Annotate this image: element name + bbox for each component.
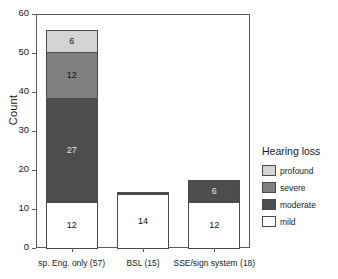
legend-swatch-moderate — [262, 199, 276, 210]
bar-segment-moderate[interactable]: 27 — [46, 98, 98, 203]
legend-item-severe[interactable]: severe — [262, 182, 338, 193]
y-tick-label: 10 — [18, 202, 29, 213]
bar-1[interactable]: 1227126 — [46, 30, 98, 248]
legend-title: Hearing loss — [262, 145, 338, 157]
bar-segment-profound[interactable]: 6 — [46, 30, 98, 53]
legend-label: severe — [280, 183, 306, 193]
segment-value-label: 6 — [212, 187, 217, 196]
segment-value-label: 14 — [138, 217, 148, 226]
bar-segment-mild[interactable]: 12 — [46, 202, 98, 249]
y-tick-label: 0 — [24, 241, 29, 252]
legend-label: mild — [280, 217, 296, 227]
stacked-bar-chart: Count 0102030405060 122712614126 sp. Eng… — [0, 0, 338, 279]
segment-value-label: 12 — [67, 71, 77, 80]
y-axis-title: Count — [7, 75, 19, 145]
bar-segment-moderate[interactable]: 6 — [188, 180, 240, 203]
segment-value-label: 12 — [209, 221, 219, 230]
bar-2[interactable]: 14 — [117, 192, 169, 248]
legend: Hearing loss profoundseveremoderatemild — [262, 145, 338, 233]
bar-segment-mild[interactable]: 12 — [188, 202, 240, 249]
legend-swatch-severe — [262, 182, 276, 193]
y-tick-label: 40 — [18, 85, 29, 96]
segment-value-label: 6 — [69, 37, 74, 46]
bars-group: 122712614126 — [36, 14, 250, 248]
segment-value-label: 12 — [67, 221, 77, 230]
x-tick-mark — [143, 248, 144, 252]
bar-3[interactable]: 126 — [188, 180, 240, 248]
y-tick-label: 30 — [18, 124, 29, 135]
y-tick-mark — [32, 248, 36, 249]
legend-swatch-mild — [262, 216, 276, 227]
legend-items: profoundseveremoderatemild — [262, 165, 338, 227]
legend-label: profound — [280, 166, 314, 176]
legend-swatch-profound — [262, 165, 276, 176]
x-axis-label: sp. Eng. only (57) — [38, 258, 105, 268]
bar-segment-moderate[interactable] — [117, 192, 169, 196]
x-tick-mark — [214, 248, 215, 252]
legend-item-mild[interactable]: mild — [262, 216, 338, 227]
segment-value-label: 27 — [67, 146, 77, 155]
x-axis-label: BSL (15) — [126, 258, 159, 268]
legend-item-moderate[interactable]: moderate — [262, 199, 338, 210]
legend-label: moderate — [280, 200, 316, 210]
y-tick-label: 50 — [18, 46, 29, 57]
y-tick-label: 20 — [18, 163, 29, 174]
x-axis-label: SSE/sign system (18) — [173, 258, 255, 268]
bar-segment-mild[interactable]: 14 — [117, 194, 169, 249]
y-tick-label: 60 — [18, 7, 29, 18]
bar-segment-severe[interactable]: 12 — [46, 52, 98, 99]
x-tick-mark — [72, 248, 73, 252]
legend-item-profound[interactable]: profound — [262, 165, 338, 176]
